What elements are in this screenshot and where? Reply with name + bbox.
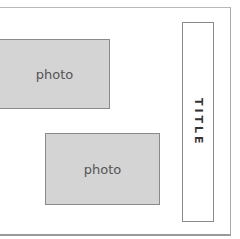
photo-label: photo [84,162,122,177]
photo-label: photo [36,67,74,82]
photo-placeholder-2[interactable]: photo [45,133,160,205]
title-placeholder[interactable]: TITLE [182,22,214,222]
title-label: TITLE [192,98,205,147]
photo-placeholder-1[interactable]: photo [0,39,110,109]
